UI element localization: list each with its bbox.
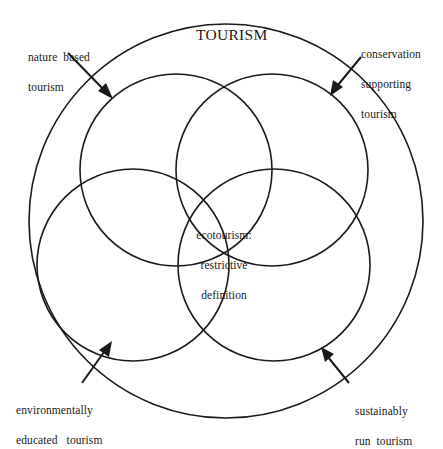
- label-line: supporting: [361, 79, 421, 89]
- label-line: nature based: [28, 52, 90, 62]
- label-line: educated tourism: [16, 435, 102, 445]
- label-line: run tourism: [355, 436, 412, 446]
- center-label: ecotourism: restrictive definition: [176, 210, 272, 310]
- label-environmentally-educated-tourism: environmentally educated tourism: [16, 385, 102, 449]
- arrow-environmentally-educated: [82, 341, 112, 383]
- label-line: environmentally: [16, 405, 102, 415]
- arrow-sustainably-run: [321, 347, 349, 383]
- arrow-conservation-supporting: [330, 57, 361, 96]
- center-label-line2: restrictive: [176, 260, 272, 270]
- label-conservation-supporting-tourism: conservation supporting tourism: [361, 29, 421, 129]
- diagram-title: TOURISM: [196, 26, 268, 44]
- label-line: tourism: [361, 109, 421, 119]
- label-line: tourism: [28, 82, 90, 92]
- center-label-line3: definition: [176, 290, 272, 300]
- label-line: sustainably: [355, 406, 412, 416]
- label-sustainably-run-tourism: sustainably run tourism: [355, 386, 412, 449]
- label-nature-based-tourism: nature based tourism: [28, 32, 90, 102]
- center-label-line1: ecotourism:: [176, 230, 272, 240]
- label-line: conservation: [361, 49, 421, 59]
